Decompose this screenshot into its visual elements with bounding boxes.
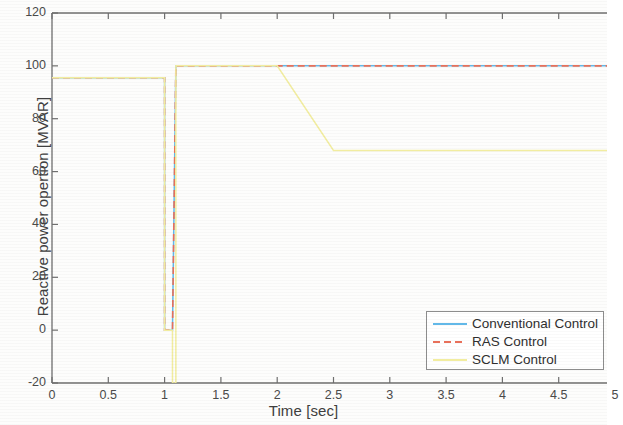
legend-label-conventional-control: Conventional Control bbox=[472, 317, 598, 331]
legend-item-ras-control: RAS Control bbox=[427, 333, 603, 351]
x-tick-label: 3 bbox=[368, 388, 412, 402]
legend-label-ras-control: RAS Control bbox=[472, 335, 547, 349]
legend-label-sclm-control: SCLM Control bbox=[472, 353, 557, 367]
legend-item-conventional-control: Conventional Control bbox=[427, 315, 603, 333]
x-tick-label: 0.5 bbox=[86, 388, 130, 402]
legend-swatch-conventional-control bbox=[433, 318, 467, 330]
x-tick-label: 2.5 bbox=[312, 388, 356, 402]
y-axis-ticks bbox=[52, 13, 58, 383]
x-tick-label: 4.5 bbox=[537, 388, 581, 402]
x-tick-label: 1 bbox=[143, 388, 187, 402]
series-line bbox=[52, 66, 607, 330]
y-tick-label: 80 bbox=[4, 111, 46, 125]
x-tick-label: 3.5 bbox=[424, 388, 468, 402]
x-tick-label: 4 bbox=[480, 388, 524, 402]
x-tick-label: 1.5 bbox=[199, 388, 243, 402]
y-tick-label: -20 bbox=[4, 375, 46, 389]
chart-legend[interactable]: Conventional Control RAS Control SCLM Co… bbox=[426, 311, 604, 370]
legend-swatch-sclm-control bbox=[433, 354, 467, 366]
y-tick-label: 0 bbox=[4, 322, 46, 336]
y-tick-label: 40 bbox=[4, 216, 46, 230]
x-tick-label: 5 bbox=[593, 388, 623, 402]
x-tick-label: 0 bbox=[30, 388, 74, 402]
y-tick-label: 120 bbox=[4, 5, 46, 19]
legend-item-sclm-control: SCLM Control bbox=[427, 351, 603, 369]
series-line bbox=[52, 66, 607, 330]
legend-swatch-ras-control bbox=[433, 336, 467, 348]
y-tick-label: 60 bbox=[4, 164, 46, 178]
x-axis-label: Time [sec] bbox=[0, 402, 607, 419]
y-tick-label: 20 bbox=[4, 269, 46, 283]
x-tick-label: 2 bbox=[255, 388, 299, 402]
y-tick-label: 100 bbox=[4, 58, 46, 72]
